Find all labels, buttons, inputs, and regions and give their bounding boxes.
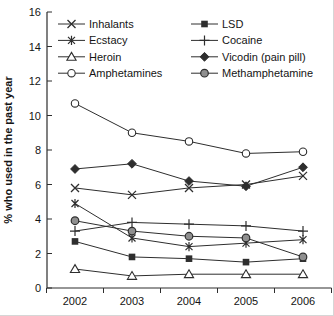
square-marker-icon <box>243 259 250 266</box>
legend-item-inhalants: Inhalants <box>58 18 134 30</box>
legend-item-heroin: Heroin <box>58 51 121 63</box>
legend-label: Amphetamines <box>89 67 163 79</box>
circle-marker-icon <box>242 150 249 157</box>
legend-label: Inhalants <box>89 18 134 30</box>
chart-canvas: % who used in the past year 024681012141… <box>0 0 334 316</box>
circle-marker-icon <box>128 129 135 136</box>
circle-marker-icon <box>71 100 78 107</box>
triangle-marker-icon <box>70 265 79 273</box>
legend-label: Vicodin (pain pill) <box>222 51 306 63</box>
legend-item-methamphetamine: Methamphetamine <box>191 67 313 79</box>
diamond-marker-icon <box>128 159 137 168</box>
gray-circle-marker-icon <box>201 69 209 77</box>
square-marker-icon <box>186 255 193 262</box>
diamond-marker-icon <box>71 165 80 174</box>
diamond-marker-icon <box>299 163 308 172</box>
gray-circle-marker-icon <box>299 253 307 261</box>
square-marker-icon <box>129 254 136 261</box>
gray-circle-marker-icon <box>185 232 193 240</box>
y-tick-label: 4 <box>35 213 41 225</box>
plus-marker-icon <box>70 226 80 236</box>
circle-marker-icon <box>185 138 192 145</box>
y-tick-label: 0 <box>35 282 41 294</box>
diamond-marker-icon <box>200 52 209 61</box>
legend-item-ecstacy: Ecstacy <box>58 34 128 46</box>
plus-marker-icon <box>200 35 210 45</box>
x-tick-label: 2006 <box>291 295 315 307</box>
x-tick-label: 2003 <box>120 295 144 307</box>
y-tick-label: 14 <box>29 41 41 53</box>
series-vicodin-pain-pill <box>71 159 308 190</box>
line-chart-figure: % who used in the past year 024681012141… <box>0 0 334 316</box>
square-marker-icon <box>72 238 79 245</box>
y-tick-label: 6 <box>35 179 41 191</box>
y-tick-label: 8 <box>35 144 41 156</box>
x-tick-label: 2004 <box>177 295 201 307</box>
series-heroin <box>70 265 307 280</box>
plus-marker-icon <box>127 217 137 227</box>
square-marker-icon <box>201 21 208 28</box>
x-tick-label: 2005 <box>234 295 258 307</box>
diamond-marker-icon <box>242 182 251 191</box>
legend-item-lsd: LSD <box>191 18 243 30</box>
gray-circle-marker-icon <box>242 234 250 242</box>
plus-marker-icon <box>184 219 194 229</box>
y-tick-label: 12 <box>29 75 41 87</box>
y-tick-label: 16 <box>29 6 41 18</box>
legend-label: Heroin <box>89 51 121 63</box>
legend-label: Methamphetamine <box>222 67 313 79</box>
circle-marker-icon <box>299 148 306 155</box>
asterisk-marker-icon <box>72 199 79 208</box>
plus-marker-icon <box>298 226 308 236</box>
legend-label: Ecstacy <box>89 34 128 46</box>
gray-circle-marker-icon <box>128 227 136 235</box>
series-line <box>75 103 303 153</box>
legend-label: Cocaine <box>222 34 262 46</box>
y-tick-label: 10 <box>29 110 41 122</box>
plus-marker-icon <box>241 221 251 231</box>
legend-item-cocaine: Cocaine <box>191 34 262 46</box>
legend-item-amphetamines: Amphetamines <box>58 67 163 79</box>
y-tick-label: 2 <box>35 248 41 260</box>
legend-label: LSD <box>222 18 243 30</box>
legend-item-vicodin-pain-pill: Vicodin (pain pill) <box>191 51 306 63</box>
series-amphetamines <box>71 100 306 157</box>
gray-circle-marker-icon <box>71 217 79 225</box>
circle-marker-icon <box>68 70 75 77</box>
y-axis-label: % who used in the past year <box>2 76 14 224</box>
x-tick-label: 2002 <box>63 295 87 307</box>
